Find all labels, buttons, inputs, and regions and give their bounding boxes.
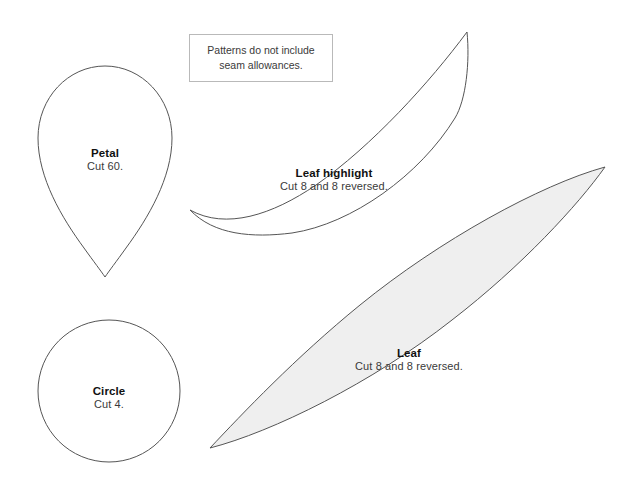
leaf-outline-shape[interactable] xyxy=(210,167,605,448)
note-line-1: Patterns do not include xyxy=(207,43,314,58)
pattern-sheet: Patterns do not include seam allowances.… xyxy=(0,0,636,502)
seam-allowance-note-text: Patterns do not include seam allowances. xyxy=(207,43,314,73)
petal-outline-shape[interactable] xyxy=(38,66,172,277)
circle-outline-shape[interactable] xyxy=(38,320,180,462)
note-line-2: seam allowances. xyxy=(207,58,314,73)
seam-allowance-note-box: Patterns do not include seam allowances. xyxy=(189,34,333,82)
